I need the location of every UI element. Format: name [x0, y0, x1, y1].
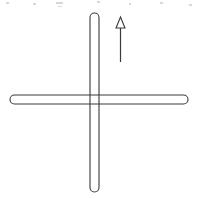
arrow-head-icon — [116, 17, 125, 28]
diagram-canvas: Cross shape with upward direction arrow — [0, 0, 197, 199]
cross-figure: Cross shape with upward direction arrow — [0, 0, 197, 199]
direction-arrow — [116, 17, 125, 62]
vertical-bar — [90, 13, 99, 192]
